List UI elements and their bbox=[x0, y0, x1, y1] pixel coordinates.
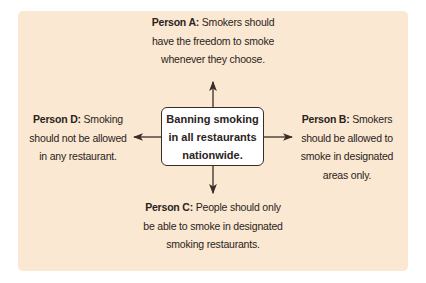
center-line: Banning smoking bbox=[166, 110, 258, 128]
person-b-position: Person B: Smokers should be allowed to s… bbox=[298, 110, 396, 184]
person-a-label: Person A: bbox=[152, 16, 199, 28]
person-a-position: Person A: Smokers should have the freedo… bbox=[143, 13, 283, 69]
center-line: in all restaurants bbox=[166, 128, 258, 146]
central-topic-box: Banning smoking in all restaurants natio… bbox=[161, 107, 264, 166]
person-c-label: Person C: bbox=[145, 201, 193, 213]
person-c-position: Person C: People should only be able to … bbox=[133, 198, 293, 254]
person-b-label: Person B: bbox=[302, 113, 350, 125]
center-line: nationwide. bbox=[166, 146, 258, 164]
person-d-label: Person D: bbox=[33, 113, 81, 125]
person-d-position: Person D: Smoking should not be allowed … bbox=[28, 110, 128, 166]
